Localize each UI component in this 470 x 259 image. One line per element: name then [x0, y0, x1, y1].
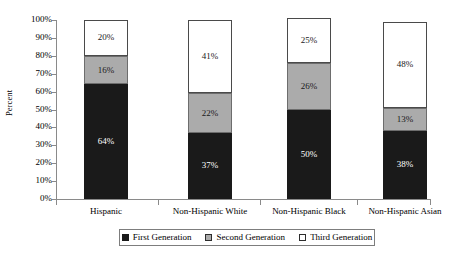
legend-label: First Generation: [133, 233, 192, 242]
bar-segment-value-label: 50%: [301, 150, 318, 159]
bar-segment[interactable]: 26%: [287, 63, 331, 110]
bar-segment-value-label: 48%: [397, 60, 414, 69]
legend-entry[interactable]: Third Generation: [299, 233, 372, 242]
legend-swatch-third-icon: [299, 234, 306, 241]
legend-entry[interactable]: Second Generation: [205, 233, 285, 242]
legend-swatch-first-icon: [122, 234, 129, 241]
y-axis-tick-mark: [52, 20, 57, 21]
y-axis-tick-labels: 100%90%80%70%60%50%40%30%20%10%0%: [16, 0, 52, 259]
x-axis-tick-mark: [430, 200, 431, 205]
y-axis-tick-label: 40%: [18, 122, 52, 131]
bar-segment[interactable]: 20%: [84, 20, 128, 56]
y-axis-tick-mark: [52, 127, 57, 128]
bar-segment-value-label: 64%: [98, 137, 115, 146]
bar-segment-value-label: 13%: [397, 115, 414, 124]
y-axis-tick-label: 100%: [18, 15, 52, 24]
bar-segment-value-label: 37%: [202, 161, 219, 170]
bar-segment[interactable]: 38%: [383, 131, 427, 199]
chart-legend: First GenerationSecond GenerationThird G…: [119, 229, 375, 246]
y-axis-tick-mark: [52, 163, 57, 164]
y-axis-tick-label: 10%: [18, 176, 52, 185]
x-axis-line: [56, 199, 431, 200]
y-axis-tick-label: 30%: [18, 140, 52, 149]
bar-segment[interactable]: 41%: [188, 20, 232, 93]
bar-segment[interactable]: 37%: [188, 133, 232, 199]
legend-label: Second Generation: [216, 233, 285, 242]
y-axis-tick-mark: [52, 74, 57, 75]
bar-segment-value-label: 38%: [397, 160, 414, 169]
plot-area: 64%16%20%37%22%41%50%26%25%38%13%48%: [56, 20, 431, 199]
y-axis-tick-label: 90%: [18, 33, 52, 42]
y-axis-tick-label: 50%: [18, 105, 52, 114]
bar-segment-value-label: 41%: [202, 52, 219, 61]
bar-segment-value-label: 22%: [202, 109, 219, 118]
y-axis-tick-mark: [52, 56, 57, 57]
y-axis-tick-label: 60%: [18, 87, 52, 96]
bar-column[interactable]: 64%16%20%: [84, 20, 128, 199]
bar-segment[interactable]: 64%: [84, 84, 128, 199]
x-axis-tick-mark: [357, 200, 358, 205]
x-axis-category-label: Hispanic: [46, 206, 166, 217]
y-axis-tick-mark: [52, 181, 57, 182]
bar-column[interactable]: 50%26%25%: [287, 20, 331, 199]
y-axis-tick-mark: [52, 145, 57, 146]
x-axis-category-label: Non-Hispanic Asian: [345, 206, 465, 217]
x-axis-tick-mark: [260, 200, 261, 205]
bar-segment[interactable]: 13%: [383, 108, 427, 131]
y-axis-tick-label: 70%: [18, 69, 52, 78]
x-axis-tick-mark: [158, 200, 159, 205]
y-axis-tick-label: 80%: [18, 51, 52, 60]
bar-segment[interactable]: 50%: [287, 110, 331, 200]
bar-column[interactable]: 37%22%41%: [188, 20, 232, 199]
bar-segment[interactable]: 48%: [383, 22, 427, 108]
bar-column[interactable]: 38%13%48%: [383, 20, 427, 199]
bar-segment-value-label: 20%: [98, 33, 115, 42]
y-axis-title: Percent: [4, 73, 14, 133]
bar-segment-value-label: 16%: [98, 66, 115, 75]
x-axis-tick-mark: [56, 200, 57, 205]
stacked-bar-chart: Percent 100%90%80%70%60%50%40%30%20%10%0…: [0, 0, 470, 259]
bar-segment[interactable]: 25%: [287, 18, 331, 63]
y-axis-tick-label: 20%: [18, 158, 52, 167]
y-axis-tick-mark: [52, 38, 57, 39]
y-axis-tick-mark: [52, 110, 57, 111]
y-axis-tick-mark: [52, 92, 57, 93]
bar-segment[interactable]: 16%: [84, 56, 128, 85]
legend-swatch-second-icon: [205, 234, 212, 241]
y-axis-tick-label: 0%: [18, 194, 52, 203]
legend-entry[interactable]: First Generation: [122, 233, 192, 242]
bar-segment-value-label: 26%: [301, 82, 318, 91]
bar-segment[interactable]: 22%: [188, 93, 232, 132]
bar-segment-value-label: 25%: [301, 36, 318, 45]
legend-label: Third Generation: [310, 233, 372, 242]
